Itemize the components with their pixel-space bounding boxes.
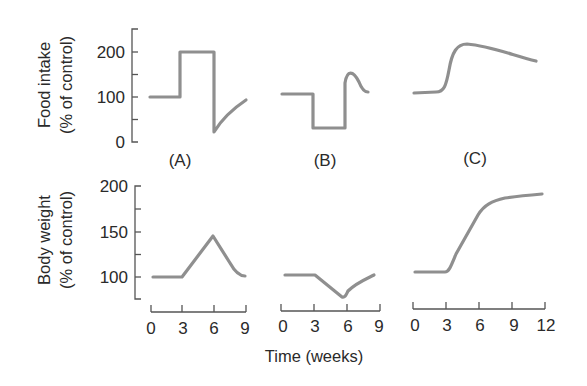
- xtick-a-0: 0: [146, 319, 155, 338]
- xtick-b-0: 0: [278, 317, 287, 336]
- top-y-axis-title: Food intake (% of control): [35, 36, 75, 134]
- bottom-ytick-100: 100: [100, 268, 128, 287]
- x-axis-b: 0 3 6 9: [278, 304, 383, 336]
- bottom-ytick-150: 150: [100, 223, 128, 242]
- body-weight-curve-b: [285, 275, 374, 297]
- top-ytick-200: 200: [97, 43, 125, 62]
- panel-label-b: (B): [314, 151, 337, 170]
- xtick-a-3: 3: [178, 319, 187, 338]
- x-axis-a: 0 3 6 9: [146, 305, 249, 338]
- bottom-ytick-200: 200: [100, 177, 128, 196]
- xtick-c-6: 6: [475, 316, 484, 335]
- bottom-y-axis-title-line2: (% of control): [57, 191, 75, 289]
- top-y-axis: 200 100 0: [97, 29, 138, 152]
- top-y-axis-title-line1: Food intake: [35, 42, 53, 128]
- bottom-y-axis-title: Body weight (% of control): [35, 191, 75, 289]
- figure: Food intake (% of control) Body weight (…: [0, 0, 587, 386]
- top-y-axis-line: [132, 29, 138, 142]
- bottom-y-axis: 200 150 100: [100, 177, 141, 299]
- body-weight-curve-c: [415, 194, 542, 272]
- food-intake-curve-b: [282, 73, 368, 128]
- food-intake-curve-a: [150, 52, 246, 132]
- xtick-b-3: 3: [310, 317, 319, 336]
- xtick-c-3: 3: [442, 316, 451, 335]
- xtick-c-12: 12: [537, 316, 556, 335]
- xtick-c-9: 9: [509, 316, 518, 335]
- body-weight-curve-a: [153, 236, 245, 277]
- food-intake-curve-c: [414, 44, 536, 93]
- xtick-a-6: 6: [209, 319, 218, 338]
- x-axis-title: Time (weeks): [265, 347, 363, 365]
- bottom-y-axis-line: [135, 186, 141, 299]
- xtick-b-6: 6: [343, 317, 352, 336]
- top-y-axis-title-line2: (% of control): [57, 36, 75, 134]
- panel-label-c: (C): [463, 149, 487, 168]
- top-ytick-100: 100: [97, 88, 125, 107]
- panel-label-a: (A): [169, 151, 192, 170]
- top-ytick-0: 0: [116, 133, 125, 152]
- xtick-b-9: 9: [374, 317, 383, 336]
- bottom-y-axis-title-line1: Body weight: [35, 195, 53, 285]
- xtick-c-0: 0: [410, 316, 419, 335]
- xtick-a-9: 9: [240, 319, 249, 338]
- x-axis-c: 0 3 6 9 12: [410, 302, 555, 335]
